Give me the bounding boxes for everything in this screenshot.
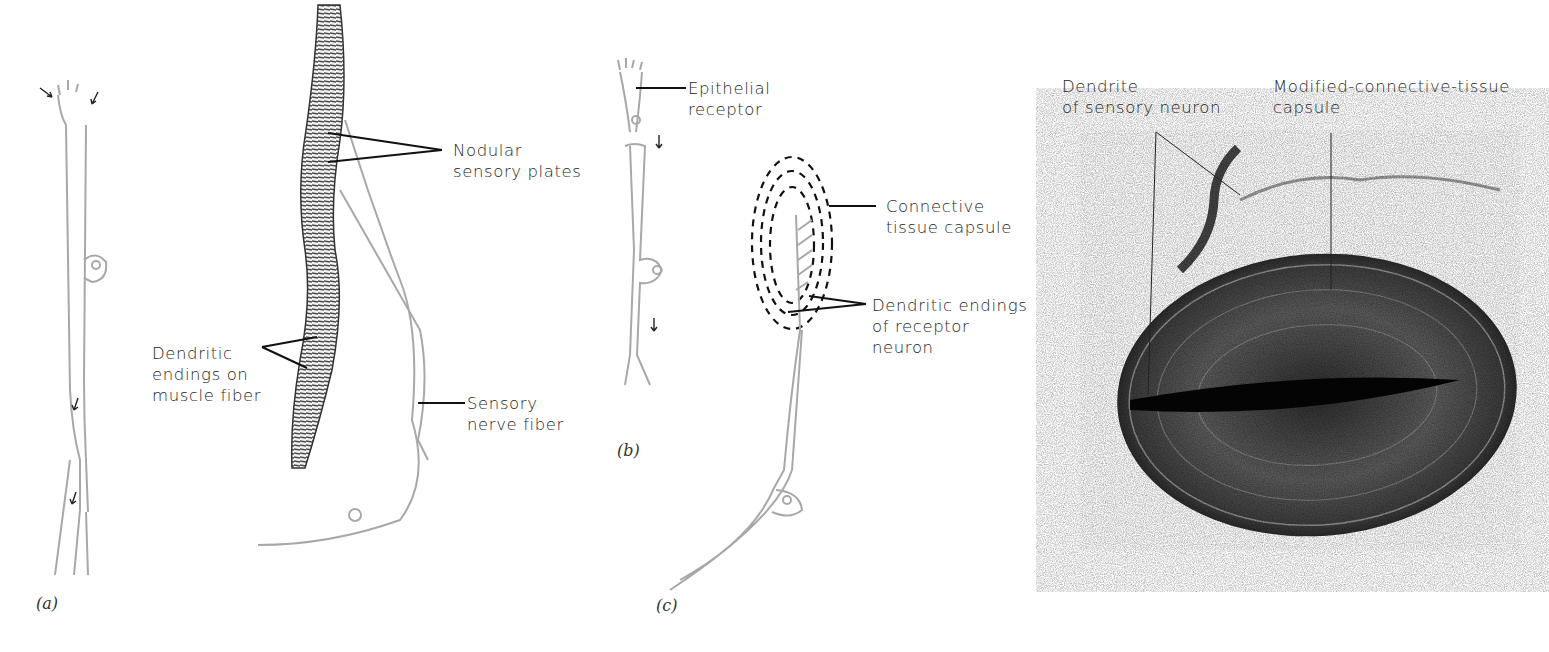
photomicrograph (1080, 130, 1526, 550)
label-line: Dendritic (152, 344, 233, 363)
label-connective-tissue-capsule: Connectivetissue capsule (886, 196, 1012, 238)
label-line: of receptor (872, 317, 969, 336)
label-line: neuron (872, 338, 934, 357)
panel-label-a: (a) (36, 594, 58, 613)
label-sensory-nerve-fiber: Sensorynerve fiber (467, 393, 564, 435)
label-photo-capsule: Modified-connective-tissuecapsule (1273, 76, 1510, 118)
label-epithelial-receptor: Epithelialreceptor (688, 78, 770, 120)
label-line: Sensory (467, 394, 538, 413)
neuron-b (618, 58, 662, 385)
label-line: Dendrite (1062, 77, 1139, 96)
label-line: capsule (1273, 98, 1341, 117)
label-line: endings on (152, 365, 248, 384)
label-line: Nodular (453, 141, 522, 160)
label-line: Modified-connective-tissue (1273, 77, 1510, 96)
panel-label-c: (c) (656, 596, 677, 615)
label-line: Connective (886, 197, 985, 216)
capsule-c (752, 157, 832, 329)
label-line: receptor (688, 100, 762, 119)
label-line: of sensory neuron (1062, 98, 1221, 117)
label-photo-dendrite: Dendriteof sensory neuron (1062, 76, 1221, 118)
leader-lines-a (262, 133, 465, 403)
neuron-c (670, 215, 812, 590)
label-line: tissue capsule (886, 218, 1012, 237)
arrow-icons-b (651, 135, 662, 331)
label-dendritic-endings-receptor: Dendritic endingsof receptorneuron (872, 295, 1027, 358)
label-line: muscle fiber (152, 386, 261, 405)
label-line: Dendritic endings (872, 296, 1027, 315)
label-line: nerve fiber (467, 415, 564, 434)
label-line: sensory plates (453, 162, 581, 181)
muscle-fiber (292, 5, 344, 468)
panel-label-b: (b) (617, 441, 640, 460)
label-line: Epithelial (688, 79, 770, 98)
label-dendritic-endings-muscle: Dendriticendings onmuscle fiber (152, 343, 261, 406)
sensory-nerve-fiber (258, 120, 428, 545)
label-nodular-sensory-plates: Nodularsensory plates (453, 140, 581, 182)
neuron-a (55, 80, 106, 575)
